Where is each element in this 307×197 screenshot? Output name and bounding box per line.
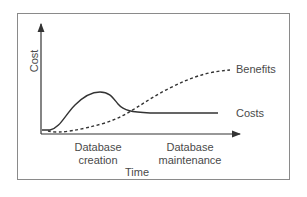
phase-maintenance-line1: Database [150,141,230,154]
y-axis-label: Cost [28,41,40,81]
phase-creation-label: Database creation [68,141,128,167]
costs-label: Costs [236,107,264,120]
phase-maintenance-line2: maintenance [150,154,230,167]
phase-maintenance-label: Database maintenance [150,141,230,167]
benefits-label: Benefits [236,63,276,76]
cost-benefit-diagram [0,0,307,197]
phase-creation-line1: Database [68,141,128,154]
benefits-curve [48,70,230,132]
costs-curve [42,92,218,130]
phase-creation-line2: creation [68,154,128,167]
x-axis-label: Time [125,166,149,179]
